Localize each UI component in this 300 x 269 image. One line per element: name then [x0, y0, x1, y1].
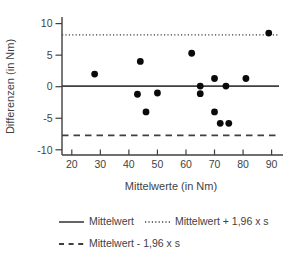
data-point [154, 90, 161, 97]
data-point [143, 109, 150, 116]
data-point [223, 83, 230, 90]
x-tick-label: 20 [66, 158, 78, 170]
x-axis-title: Mittelwerte (in Nm) [125, 180, 217, 192]
bland-altman-plot: 1050-5-102030405060708090 Mittelwerte (i… [0, 0, 300, 200]
legend-item-mean: Mittelwert [59, 215, 134, 228]
legend-item-lower-limit: Mittelwert - 1,96 x s [59, 237, 180, 250]
data-point [211, 75, 218, 82]
x-tick-label: 50 [152, 158, 164, 170]
data-point [197, 90, 204, 97]
dotted-line-icon [145, 220, 170, 224]
y-tick-label: -10 [37, 144, 52, 156]
dashed-line-icon [59, 242, 84, 246]
data-point [243, 75, 250, 82]
legend: Mittelwert Mittelwert + 1,96 x s Mittelw… [59, 215, 269, 259]
x-tick-label: 80 [237, 158, 249, 170]
data-point [211, 109, 218, 116]
legend-row-2: Mittelwert - 1,96 x s [59, 237, 269, 250]
x-tick-label: 90 [266, 158, 278, 170]
legend-label-lower-limit: Mittelwert - 1,96 x s [89, 237, 180, 250]
data-point [188, 50, 195, 57]
data-point [225, 120, 232, 127]
x-tick-label: 30 [94, 158, 106, 170]
data-point [134, 91, 141, 98]
x-tick-label: 60 [180, 158, 192, 170]
y-tick-label: -5 [43, 112, 52, 124]
data-point [137, 58, 144, 65]
legend-label-mean: Mittelwert [89, 215, 134, 228]
data-point [217, 120, 224, 127]
x-tick-label: 70 [209, 158, 221, 170]
y-axis-title: Differenzen (in Nm) [4, 39, 16, 134]
y-tick-label: 0 [47, 80, 53, 92]
bland-altman-figure: 1050-5-102030405060708090 Mittelwerte (i… [0, 0, 300, 269]
data-point [265, 30, 272, 37]
data-point [197, 83, 204, 90]
legend-item-upper-limit: Mittelwert + 1,96 x s [145, 215, 269, 228]
legend-row-1: Mittelwert Mittelwert + 1,96 x s [59, 215, 269, 228]
solid-line-icon [59, 220, 84, 224]
x-tick-label: 40 [123, 158, 135, 170]
legend-label-upper-limit: Mittelwert + 1,96 x s [175, 215, 269, 228]
y-tick-label: 5 [47, 49, 53, 61]
data-point [91, 71, 98, 78]
y-tick-label: 10 [41, 17, 53, 29]
